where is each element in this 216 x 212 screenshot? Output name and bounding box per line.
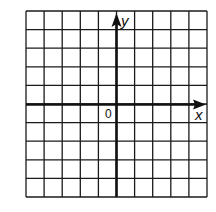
origin-label: 0 [105, 107, 112, 121]
x-axis-label: x [194, 106, 203, 123]
y-axis-label: y [120, 12, 130, 29]
coordinate-plane: y x 0 [0, 0, 216, 212]
